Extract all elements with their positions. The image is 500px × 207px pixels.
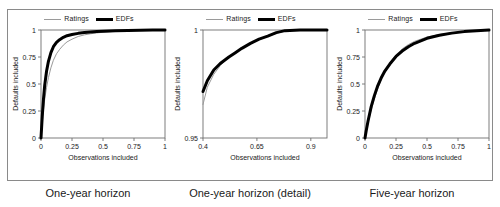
legend-label-edfs: EDFs xyxy=(116,15,134,23)
y-tick-label: 0 xyxy=(356,135,360,142)
x-tick-label: 0.75 xyxy=(451,143,465,150)
y-tick-label: 0.25 xyxy=(22,108,36,115)
legend-label-ratings: Ratings xyxy=(388,15,412,23)
legend-entry-edfs: EDFs xyxy=(96,15,134,23)
y-tick-label: 0 xyxy=(32,135,36,142)
legend-label-ratings: Ratings xyxy=(226,15,250,23)
chart-panel-one-year-horizon: Ratings EDFs 00.250.50.75100.250.50.751O… xyxy=(8,10,170,182)
y-tick-label: 1 xyxy=(32,27,36,34)
y-axis-title: Defaults included xyxy=(336,57,343,111)
legend-line-ratings-icon xyxy=(368,19,385,20)
x-tick-label: 0 xyxy=(39,143,43,150)
plot-area: 00.250.50.75100.250.50.751Observations i… xyxy=(332,24,494,172)
figure-frame: Ratings EDFs 00.250.50.75100.250.50.751O… xyxy=(7,9,493,181)
y-tick-label: 0.75 xyxy=(22,54,36,61)
x-axis-title: Observations included xyxy=(230,154,299,161)
y-tick-label: 1 xyxy=(356,27,360,34)
x-tick-label: 0.25 xyxy=(389,143,403,150)
y-tick-label: 0.5 xyxy=(26,81,36,88)
legend-label-edfs: EDFs xyxy=(440,15,458,23)
x-tick-label: 0.4 xyxy=(198,143,208,150)
legend-label-ratings: Ratings xyxy=(64,15,88,23)
caption-panel-2: Five-year horizon xyxy=(331,183,493,205)
x-tick-label: 0.9 xyxy=(306,143,316,150)
legend-entry-ratings: Ratings xyxy=(206,15,250,23)
legend-entry-ratings: Ratings xyxy=(368,15,412,23)
x-tick-label: 0 xyxy=(363,143,367,150)
plot-frame xyxy=(203,30,327,138)
y-axis-title: Defaults included xyxy=(12,57,19,111)
legend-line-edfs-icon xyxy=(258,18,275,21)
legend-line-ratings-icon xyxy=(206,19,223,20)
x-tick-label: 0.25 xyxy=(65,143,79,150)
y-tick-label: 0.95 xyxy=(184,135,198,142)
y-axis-title: Defaults included xyxy=(174,57,181,111)
plot-area: 0.9510.40.650.9Observations includedDefa… xyxy=(170,24,332,172)
plot-area: 00.250.50.75100.250.50.751Observations i… xyxy=(8,24,170,172)
x-tick-label: 0.5 xyxy=(98,143,108,150)
legend-entry-edfs: EDFs xyxy=(420,15,458,23)
y-tick-label: 0.5 xyxy=(350,81,360,88)
panel-captions: One-year horizon One-year horizon (detai… xyxy=(7,183,493,205)
caption-panel-1: One-year horizon (detail) xyxy=(169,183,331,205)
x-tick-label: 1 xyxy=(163,143,167,150)
legend-line-edfs-icon xyxy=(420,18,437,21)
plot-frame xyxy=(41,30,165,138)
y-tick-label: 0.75 xyxy=(346,54,360,61)
x-tick-label: 0.5 xyxy=(422,143,432,150)
x-axis-title: Observations included xyxy=(68,154,137,161)
caption-panel-0: One-year horizon xyxy=(7,183,169,205)
x-axis-title: Observations included xyxy=(392,154,461,161)
legend-line-edfs-icon xyxy=(96,18,113,21)
legend-entry-edfs: EDFs xyxy=(258,15,296,23)
y-tick-label: 1 xyxy=(194,27,198,34)
x-tick-label: 1 xyxy=(487,143,491,150)
y-tick-label: 0.25 xyxy=(346,108,360,115)
plot-frame xyxy=(365,30,489,138)
legend-entry-ratings: Ratings xyxy=(44,15,88,23)
legend-label-edfs: EDFs xyxy=(278,15,296,23)
x-tick-label: 0.75 xyxy=(127,143,141,150)
x-tick-label: 0.65 xyxy=(250,143,264,150)
legend-line-ratings-icon xyxy=(44,19,61,20)
chart-panel-five-year-horizon: Ratings EDFs 00.250.50.75100.250.50.751O… xyxy=(332,10,494,182)
chart-panel-one-year-horizon-detail: Ratings EDFs 0.9510.40.650.9Observations… xyxy=(170,10,332,182)
